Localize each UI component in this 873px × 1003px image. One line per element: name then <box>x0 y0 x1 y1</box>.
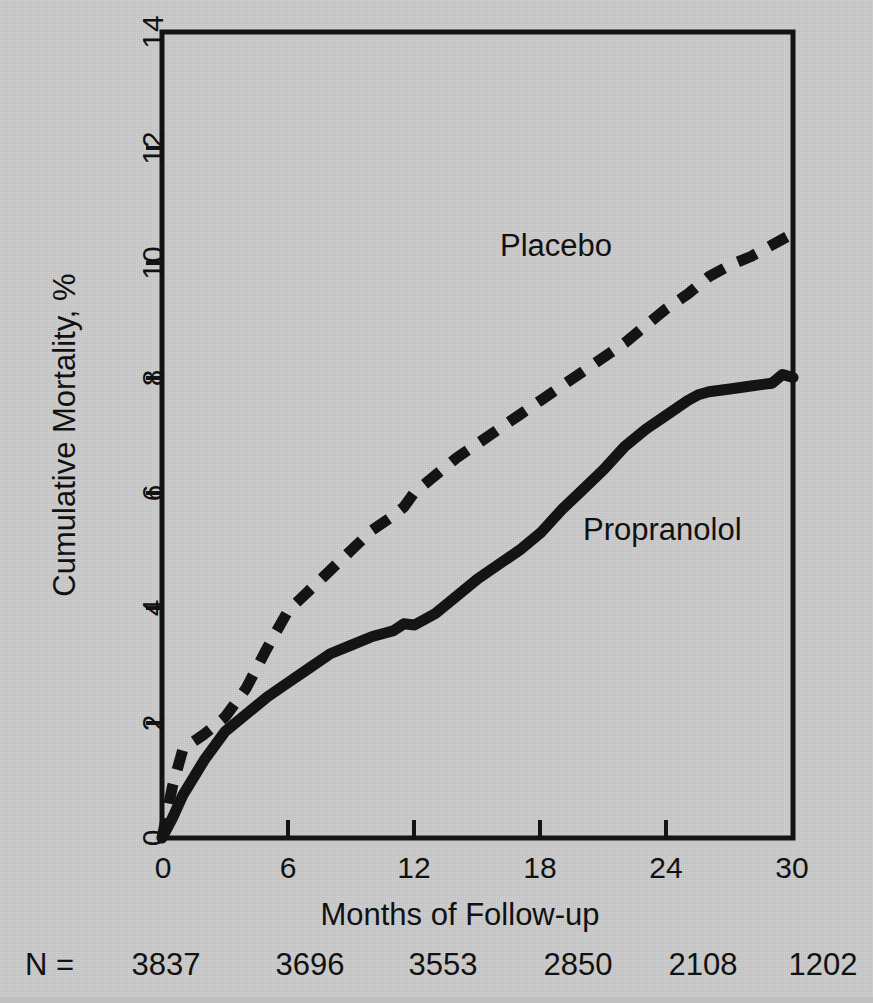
series-label-propranolol: Propranolol <box>583 512 742 547</box>
x-tick-label: 6 <box>280 851 297 884</box>
y-tick-label: 6 <box>136 485 169 502</box>
y-axis-title: Cumulative Mortality, % <box>47 273 82 596</box>
y-tick-label: 2 <box>136 715 169 732</box>
y-tick-label: 8 <box>136 370 169 387</box>
plot-frame <box>162 32 793 838</box>
x-axis-tick-labels: 0 6 12 18 24 30 <box>155 851 809 884</box>
figure-bottom-edge <box>0 997 873 1003</box>
x-tick-label: 24 <box>649 851 682 884</box>
n-row-prefix: N = <box>25 947 74 982</box>
n-row-value: 3553 <box>409 947 478 982</box>
x-tick-label: 12 <box>397 851 430 884</box>
n-row-value: 2850 <box>544 947 613 982</box>
series-label-placebo: Placebo <box>500 228 612 263</box>
x-tick-label: 0 <box>155 851 172 884</box>
n-at-risk-row: N = 3837 3696 3553 2850 2108 1202 <box>25 947 857 982</box>
n-row-value: 2108 <box>669 947 738 982</box>
n-row-value: 3837 <box>132 947 201 982</box>
x-tick-label: 18 <box>523 851 556 884</box>
mortality-chart: 14 12 10 8 6 4 2 0 Cumulative Mortality,… <box>0 0 873 1003</box>
n-row-value: 1202 <box>789 947 858 982</box>
x-tick-label: 30 <box>775 851 808 884</box>
y-tick-label: 12 <box>136 131 169 164</box>
series-propranolol-line <box>162 375 793 838</box>
n-row-value: 3696 <box>276 947 345 982</box>
x-axis-title: Months of Follow-up <box>320 897 599 932</box>
y-tick-label: 14 <box>136 15 169 48</box>
x-axis-ticks <box>288 820 666 838</box>
y-tick-label: 10 <box>136 246 169 279</box>
y-tick-label: 4 <box>136 600 169 617</box>
